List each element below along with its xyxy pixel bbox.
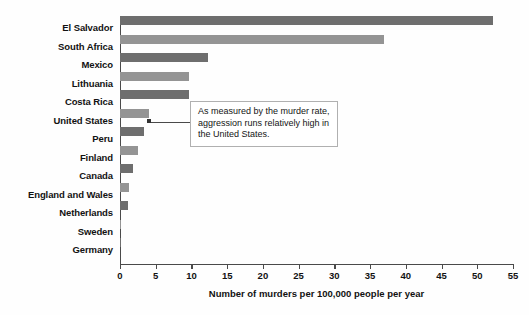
bar [120, 16, 493, 25]
category-label: Germany [73, 245, 114, 255]
bar [120, 220, 121, 229]
bar [120, 183, 129, 192]
x-axis-tick-label: 45 [427, 270, 457, 281]
annotation-leader-line [150, 122, 190, 123]
x-axis-tick-label: 50 [462, 270, 492, 281]
category-label: England and Wales [28, 190, 113, 200]
x-axis-tick-label: 35 [355, 270, 385, 281]
x-axis-tick [334, 264, 335, 269]
category-label: Canada [79, 171, 113, 181]
annotation-leader-marker [147, 119, 151, 123]
annotation-callout: As measured by the murder rate, aggressi… [190, 101, 338, 147]
x-axis-tick [156, 264, 157, 269]
x-axis-tick [442, 264, 443, 269]
bar [120, 146, 138, 155]
x-axis-tick [406, 264, 407, 269]
x-axis-tick-label: 30 [319, 270, 349, 281]
bar [120, 109, 149, 118]
x-axis-tick [477, 264, 478, 269]
bar [120, 90, 189, 99]
bar [120, 164, 133, 173]
x-axis-tick-label: 0 [105, 270, 135, 281]
x-axis-tick [513, 264, 514, 269]
bar [120, 35, 384, 44]
category-label: Mexico [81, 60, 113, 70]
category-label: El Salvador [62, 23, 113, 33]
category-label-column: El SalvadorSouth AfricaMexicoLithuaniaCo… [0, 0, 113, 260]
x-axis-tick [227, 264, 228, 269]
x-axis-tick [299, 264, 300, 269]
category-label: Sweden [78, 227, 113, 237]
category-label: Lithuania [72, 79, 113, 89]
category-label: South Africa [58, 42, 113, 52]
x-axis-title: Number of murders per 100,000 people per… [120, 288, 513, 299]
category-label: United States [54, 116, 113, 126]
x-axis-tick [263, 264, 264, 269]
bar [120, 201, 128, 210]
bar [120, 53, 208, 62]
x-axis-tick [370, 264, 371, 269]
category-label: Netherlands [59, 208, 113, 218]
bar [120, 238, 121, 247]
category-label: Peru [92, 134, 113, 144]
bar-chart: El SalvadorSouth AfricaMexicoLithuaniaCo… [0, 0, 529, 315]
category-label: Costa Rica [65, 97, 113, 107]
x-axis-tick-label: 5 [141, 270, 171, 281]
bar [120, 127, 144, 136]
x-axis-tick-label: 20 [248, 270, 278, 281]
annotation-text: As measured by the murder rate, aggressi… [198, 106, 330, 139]
x-axis-tick-label: 25 [284, 270, 314, 281]
x-axis-line [120, 264, 513, 265]
x-axis-tick-label: 40 [391, 270, 421, 281]
bar [120, 72, 189, 81]
category-label: Finland [80, 153, 113, 163]
x-axis-tick-label: 15 [212, 270, 242, 281]
x-axis-tick-label: 55 [498, 270, 528, 281]
x-axis-tick [120, 264, 121, 269]
x-axis-tick-label: 10 [176, 270, 206, 281]
x-axis-tick [191, 264, 192, 269]
